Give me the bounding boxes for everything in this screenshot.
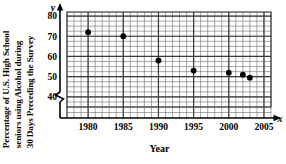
y-axis-title-line-2: seniors using Alcohol during: [14, 41, 23, 148]
x-axis-title: Year: [47, 143, 272, 154]
x-tick-label: 1985: [114, 122, 133, 132]
data-point: [156, 58, 162, 64]
x-axis-variable-label: x: [277, 113, 283, 124]
y-axis-title-line-3: 30 Days Preceding the Survey: [26, 35, 35, 148]
grid-minor: [67, 12, 271, 107]
data-point: [191, 68, 197, 74]
y-tick-label: 60: [48, 52, 58, 62]
data-point: [240, 72, 246, 78]
x-tick-label: 1980: [79, 122, 98, 132]
scatter-plot: 4050607080 198019851990199520002005 y x: [47, 0, 286, 146]
y-axis-title: Percentage of U.S. High School seniors u…: [0, 0, 48, 150]
y-axis-variable-label: y: [50, 2, 56, 13]
x-tick-label: 2005: [254, 122, 273, 132]
y-tick-labels: 4050607080: [48, 11, 58, 102]
y-tick-label: 40: [48, 92, 58, 102]
axis-variable-labels: y x: [50, 2, 283, 124]
axis-lines: [56, 3, 282, 121]
chart-figure: Percentage of U.S. High School seniors u…: [0, 0, 286, 164]
y-axis-title-line-1: Percentage of U.S. High School: [2, 31, 11, 148]
x-tick-label: 1995: [184, 122, 203, 132]
y-tick-label: 70: [48, 32, 58, 42]
data-point: [120, 33, 126, 39]
x-tick-label: 1990: [149, 122, 168, 132]
x-tick-labels: 198019851990199520002005: [79, 122, 274, 132]
data-points: [85, 29, 253, 80]
data-point: [85, 29, 91, 35]
x-tick-label: 2000: [219, 122, 238, 132]
data-point: [247, 75, 253, 81]
y-tick-label: 50: [48, 72, 58, 82]
data-point: [226, 70, 232, 76]
